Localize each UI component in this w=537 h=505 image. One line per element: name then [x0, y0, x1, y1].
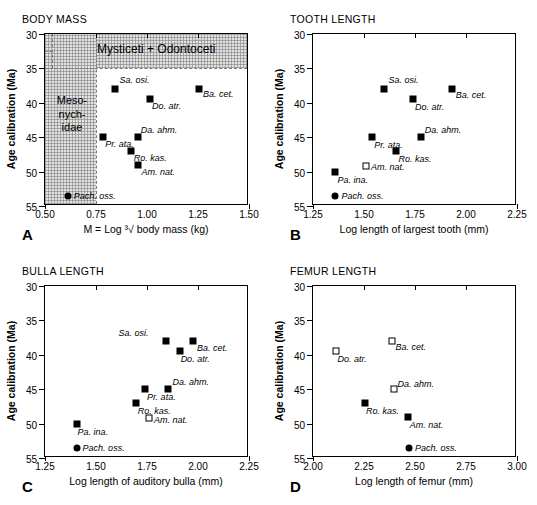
- plot-area-d: Age calibration (Ma) Log length of femur…: [312, 285, 516, 457]
- y-tick-b-45: 45: [307, 137, 313, 138]
- x-tick-b-2: [415, 34, 416, 38]
- y-tick-label-b-35: 35: [294, 64, 305, 75]
- dashed-line-mesonychid-notch: [45, 51, 52, 52]
- x-tick-label-a-2: 1.00: [137, 209, 156, 220]
- y-tick-c-50: 50: [39, 424, 45, 425]
- panel-b-letter: B: [290, 226, 301, 243]
- dashed-line-mesonychid-top: [52, 34, 53, 68]
- panel-bulla-length: BULLA LENGTH C Age calibration (Ma) Log …: [0, 252, 268, 504]
- plot-area-b: Age calibration (Ma) Log length of large…: [312, 33, 516, 205]
- data-point-label: Da. ahm.: [172, 377, 209, 387]
- panel-d-letter: D: [290, 478, 301, 495]
- data-point-label: Ba. cet.: [203, 89, 234, 99]
- y-tick-label-d-40: 40: [294, 350, 305, 361]
- plot-area-a: Age calibration (Ma) M = Log ³√ body mas…: [44, 33, 248, 205]
- data-point-label: Ro. kas.: [366, 406, 399, 416]
- y-tick-b-50: 50: [307, 172, 313, 173]
- panel-c-letter: C: [22, 478, 33, 495]
- data-point-marker: [390, 386, 397, 393]
- plot-area-c: Age calibration (Ma) Log length of audit…: [44, 285, 248, 457]
- y-tick-c-40: 40: [39, 355, 45, 356]
- y-tick-d-35: 35: [307, 320, 313, 321]
- data-point-marker: [417, 134, 424, 141]
- data-point-label: Do. atr.: [337, 354, 366, 364]
- x-tick-a-2: [147, 34, 148, 38]
- panel-a-title: BODY MASS: [22, 13, 87, 25]
- data-point-label: Pach. oss.: [83, 443, 125, 453]
- y-axis-title-d: Age calibration (Ma): [273, 321, 285, 421]
- data-point-label: Am. nat.: [371, 162, 405, 172]
- data-point-marker: [64, 192, 71, 199]
- x-tick-label-d-0: 2.00: [303, 461, 322, 472]
- data-point-label: Sa. osi.: [119, 75, 149, 85]
- x-tick-d-1: [364, 286, 365, 290]
- data-point-label: Pach. oss.: [415, 443, 457, 453]
- x-tick-label-a-4: 1.50: [239, 209, 258, 220]
- y-tick-label-c-45: 45: [26, 385, 37, 396]
- data-point-label: Ba. cet.: [456, 90, 487, 100]
- plot-inner-a: Mysticeti + Odontoceti Meso-nych-idae Sa…: [45, 34, 247, 204]
- data-point-marker: [332, 192, 339, 199]
- y-tick-label-b-50: 50: [294, 167, 305, 178]
- y-tick-b-40: 40: [307, 103, 313, 104]
- data-point-label: Do. atr.: [415, 102, 444, 112]
- y-tick-d-30: 30: [307, 286, 313, 287]
- y-tick-label-a-35: 35: [26, 64, 37, 75]
- y-tick-label-c-40: 40: [26, 350, 37, 361]
- y-tick-d-45: 45: [307, 389, 313, 390]
- y-tick-b-30: 30: [307, 34, 313, 35]
- data-point-label: Pach. oss.: [74, 191, 116, 201]
- y-tick-a-30: 30: [39, 34, 45, 35]
- x-axis-title-a: M = Log ³√ body mass (kg): [83, 223, 208, 235]
- x-tick-label-a-0: 0.50: [35, 209, 54, 220]
- x-tick-label-d-4: 3.00: [507, 461, 526, 472]
- y-tick-a-45: 45: [39, 137, 45, 138]
- data-point-label: Da. ahm.: [398, 379, 435, 389]
- y-tick-a-40: 40: [39, 103, 45, 104]
- y-tick-label-a-50: 50: [26, 167, 37, 178]
- y-axis-title-a: Age calibration (Ma): [5, 69, 17, 169]
- figure-four-panel-scatter: BODY MASS A Age calibration (Ma) M = Log…: [0, 0, 537, 505]
- x-tick-label-a-1: 0.75: [86, 209, 105, 220]
- y-tick-b-35: 35: [307, 68, 313, 69]
- x-tick-label-c-2: 1.75: [137, 461, 156, 472]
- region-label-mysticeti: Mysticeti + Odontoceti: [97, 43, 215, 57]
- x-axis-title-b: Log length of largest tooth (mm): [340, 223, 489, 235]
- y-tick-a-35: 35: [39, 68, 45, 69]
- x-axis-title-d: Log length of femur (mm): [355, 475, 473, 487]
- y-tick-label-c-30: 30: [26, 282, 37, 293]
- panel-tooth-length: TOOTH LENGTH B Age calibration (Ma) Log …: [268, 0, 536, 252]
- data-point-label: Do. atr.: [152, 101, 181, 111]
- x-tick-a-1: [96, 34, 97, 38]
- dashed-line-35ma: [45, 68, 247, 69]
- x-tick-label-d-3: 2.75: [456, 461, 475, 472]
- panel-body-mass: BODY MASS A Age calibration (Ma) M = Log…: [0, 0, 268, 252]
- panel-femur-length: FEMUR LENGTH D Age calibration (Ma) Log …: [268, 252, 536, 504]
- y-tick-d-50: 50: [307, 424, 313, 425]
- x-tick-label-d-2: 2.50: [405, 461, 424, 472]
- y-tick-label-b-40: 40: [294, 98, 305, 109]
- x-tick-c-2: [147, 286, 148, 290]
- region-label-mesonychidae: Meso-nych-idae: [50, 94, 94, 135]
- plot-inner-b: Sa. osi.Ba. cet.Do. atr.Da. ahm.Pr. ata.…: [313, 34, 515, 204]
- y-tick-label-c-35: 35: [26, 316, 37, 327]
- y-axis-title-c: Age calibration (Ma): [5, 321, 17, 421]
- x-tick-label-c-3: 2.00: [188, 461, 207, 472]
- y-tick-label-d-35: 35: [294, 316, 305, 327]
- y-tick-label-a-45: 45: [26, 133, 37, 144]
- x-tick-label-c-1: 1.50: [86, 461, 105, 472]
- x-tick-label-a-3: 1.25: [188, 209, 207, 220]
- x-tick-d-2: [415, 286, 416, 290]
- x-tick-d-3: [466, 286, 467, 290]
- x-tick-a-3: [198, 34, 199, 38]
- y-tick-a-50: 50: [39, 172, 45, 173]
- y-tick-label-b-30: 30: [294, 30, 305, 41]
- data-point-marker: [73, 444, 80, 451]
- x-tick-c-3: [198, 286, 199, 290]
- x-tick-label-b-2: 1.75: [405, 209, 424, 220]
- data-point-label: Pa. ina.: [337, 175, 368, 185]
- x-tick-label-b-1: 1.50: [354, 209, 373, 220]
- y-tick-label-d-45: 45: [294, 385, 305, 396]
- data-point-marker: [163, 338, 170, 345]
- data-point-label: Da. ahm.: [425, 125, 462, 135]
